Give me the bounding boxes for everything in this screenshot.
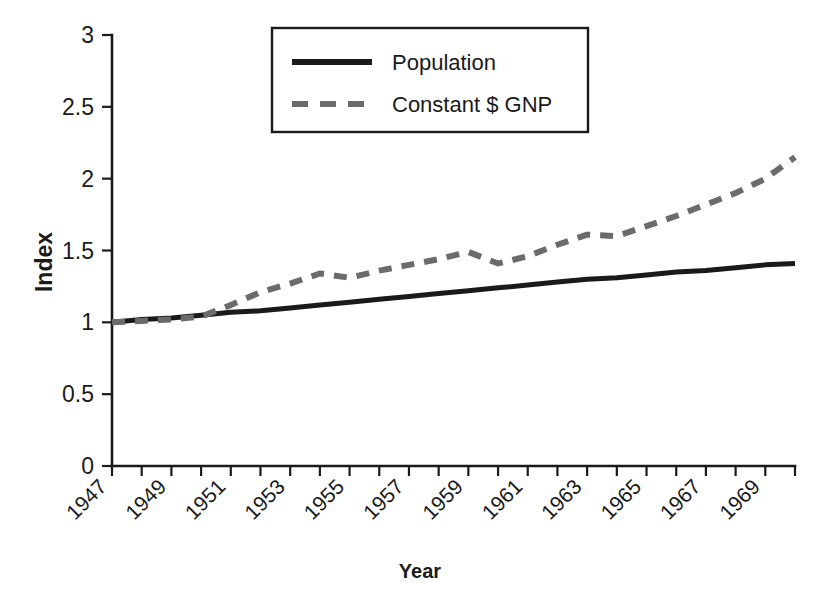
y-axis-title: Index (31, 232, 57, 292)
line-chart: 00.511.522.53 19471949195119531955195719… (0, 0, 825, 600)
x-axis-title: Year (399, 560, 441, 582)
y-tick-label: 2 (81, 166, 94, 192)
y-tick-label: 3 (81, 22, 94, 48)
legend-label-constant-gnp: Constant $ GNP (392, 92, 552, 117)
legend-label-population: Population (392, 50, 496, 75)
y-tick-label: 0 (81, 453, 94, 479)
y-tick-label: 2.5 (62, 94, 94, 120)
y-tick-label: 1 (81, 309, 94, 335)
y-tick-label: 0.5 (62, 381, 94, 407)
chart-container: 00.511.522.53 19471949195119531955195719… (0, 0, 825, 600)
chart-legend: Population Constant $ GNP (272, 28, 588, 132)
y-tick-label: 1.5 (62, 238, 94, 264)
